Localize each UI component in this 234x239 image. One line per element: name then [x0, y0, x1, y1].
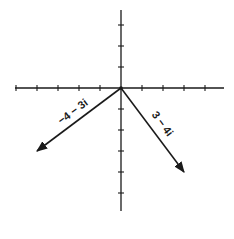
vector-label-3-neg4i: 3 − 4i — [150, 109, 176, 138]
vector-label-neg4-neg3i: −4 − 3i — [55, 96, 90, 126]
axis-ticks — [16, 25, 205, 193]
vector-neg4-neg3i — [37, 88, 121, 151]
origin-dot — [119, 86, 123, 90]
complex-plane-diagram: −4 − 3i 3 − 4i — [0, 0, 234, 239]
